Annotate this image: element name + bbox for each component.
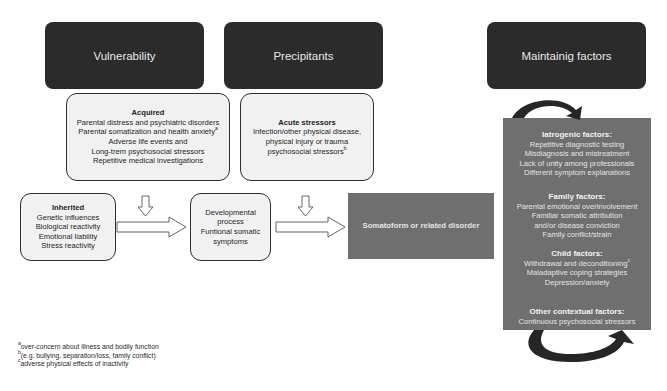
child-line: Maladaptive coping strategies [503, 268, 651, 278]
header-precipitants-label: Precipitants [273, 50, 333, 62]
developmental-box: Developmental process Funtional somatic … [190, 193, 271, 261]
maintaining-panel: Iatrogenic factors: Repetitive diagnosti… [503, 118, 651, 330]
other-section: Other contextual factors: Continuous psy… [503, 307, 651, 326]
footnote-c: cadverse physical effects of inactivity [18, 360, 159, 369]
acute-stressors-box: Acute stressors Infection/other physical… [240, 93, 374, 181]
child-line: Withdrawal and deconditioningc [503, 259, 651, 269]
family-line: Parental emotional overinvolvement [503, 202, 651, 212]
family-line: Family conflict/strain [503, 230, 651, 240]
developmental-line: Developmental [205, 208, 256, 218]
header-vulnerability-label: Vulnerability [93, 50, 155, 62]
child-section: Child factors: Withdrawal and deconditio… [503, 249, 651, 287]
header-precipitants: Precipitants [224, 22, 383, 89]
arrow-down-icon [138, 196, 154, 218]
child-line: Depression/anxiety [503, 278, 651, 288]
other-title: Other contextual factors: [503, 307, 651, 317]
iatrogenic-line: Different symptom explanations [503, 168, 651, 178]
acquired-line: Parental somatization and health anxiety… [78, 127, 218, 137]
acute-line: psychosocial stressorsb [267, 147, 346, 157]
iatrogenic-title: Iatrogenic factors: [503, 130, 651, 140]
disorder-box: Somatoform or related disorder [348, 193, 494, 259]
arrow-down-icon [298, 196, 314, 218]
acute-line: physical injury or trauma [266, 137, 348, 147]
family-section: Family factors: Parental emotional overi… [503, 192, 651, 240]
family-line: Familiar somatic attribution [503, 211, 651, 221]
inherited-title: Inherited [52, 203, 84, 213]
header-maintaining: Maintainig factors [487, 22, 646, 89]
header-vulnerability: Vulnerability [45, 22, 204, 89]
inherited-box: Inherited Genetic influences Biological … [20, 193, 116, 261]
acute-line: Infection/other physical disease, [253, 127, 361, 137]
iatrogenic-line: Lack of unity among professionals [503, 159, 651, 169]
family-title: Family factors: [503, 192, 651, 202]
acquired-box: Acquired Parental distress and psychiatr… [66, 93, 230, 181]
acute-title: Acute stressors [278, 118, 335, 128]
curved-arrow-top-icon [510, 94, 590, 122]
developmental-line: process [217, 217, 244, 227]
disorder-label: Somatoform or related disorder [363, 221, 480, 231]
iatrogenic-line: Repetitive diagnostic testing [503, 140, 651, 150]
arrow-right-icon [276, 217, 346, 237]
acquired-line: Parental distress and psychiatric disord… [77, 118, 220, 128]
footnotes: aover-concern about illness and bodily f… [18, 343, 159, 369]
inherited-line: Stress reactivity [41, 241, 95, 251]
acquired-line: Repetitive medical investigations [93, 156, 203, 166]
header-maintaining-label: Maintainig factors [521, 50, 611, 62]
footnote-a: aover-concern about illness and bodily f… [18, 343, 159, 352]
developmental-line: Funtional somatic [201, 227, 261, 237]
curved-arrow-bottom-icon [520, 330, 640, 364]
other-line: Continuous psychosocial stressors [503, 317, 651, 327]
family-line: and/or disease conviction [503, 221, 651, 231]
iatrogenic-section: Iatrogenic factors: Repetitive diagnosti… [503, 130, 651, 178]
arrow-right-icon [117, 217, 187, 237]
developmental-line: symptoms [213, 237, 248, 247]
footnote-b: b(e.g. bullying, separation/loss, family… [18, 352, 159, 361]
acquired-line: Adverse life events and [109, 137, 188, 147]
inherited-line: Genetic influences [37, 213, 99, 223]
inherited-line: Biological reactivity [36, 222, 101, 232]
iatrogenic-line: Misdiagnosis and mistreatment [503, 149, 651, 159]
inherited-line: Emotional liability [39, 232, 98, 242]
acquired-title: Acquired [132, 108, 165, 118]
acquired-line: Long-trem psychosocial stressors [91, 147, 204, 157]
